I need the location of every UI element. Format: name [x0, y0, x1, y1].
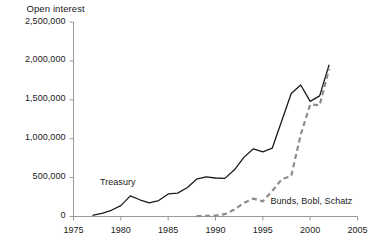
y-tick-label: 2,000,000 [0, 54, 66, 64]
chart-figure: Open interest 0500,0001,000,0001,500,000… [0, 0, 380, 251]
y-tick-label: 1,000,000 [0, 132, 66, 142]
data-series-group [92, 65, 329, 216]
x-tick-label: 1995 [241, 225, 285, 235]
x-tick-label: 1980 [99, 225, 143, 235]
series-label-bunds-bobl-schatz: Bunds, Bobl, Schatz [270, 196, 352, 206]
series-label-treasury: Treasury [100, 177, 136, 187]
x-tick-label: 1975 [52, 225, 96, 235]
y-tick-label: 500,000 [0, 171, 66, 181]
y-axis-ticks [70, 22, 74, 217]
x-axis-ticks [74, 217, 358, 221]
x-tick-label: 1990 [194, 225, 238, 235]
series-line-treasury [92, 65, 329, 216]
x-tick-label: 2000 [288, 225, 332, 235]
y-tick-label: 1,500,000 [0, 93, 66, 103]
x-tick-label: 2005 [336, 225, 380, 235]
y-tick-label: 0 [0, 210, 66, 220]
axis-lines [74, 22, 358, 217]
series-line-bunds-bobl-schatz [197, 69, 330, 216]
x-tick-label: 1985 [146, 225, 190, 235]
y-tick-label: 2,500,000 [0, 16, 66, 26]
